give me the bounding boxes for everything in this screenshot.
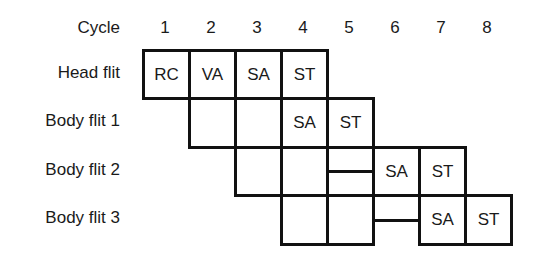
stall-cell bbox=[234, 146, 283, 197]
cycle-number: 2 bbox=[188, 18, 234, 38]
row-label-body-flit-2: Body flit 2 bbox=[0, 160, 120, 180]
stage-cell-sa: SA bbox=[234, 49, 283, 100]
stage-cell-st: ST bbox=[326, 97, 375, 149]
stall-cell bbox=[280, 194, 329, 246]
stall-cell bbox=[280, 146, 329, 197]
stage-cell-sa: SA bbox=[372, 146, 421, 197]
cycle-number: 6 bbox=[372, 18, 418, 38]
cycle-number: 5 bbox=[326, 18, 372, 38]
row-label-body-flit-3: Body flit 3 bbox=[0, 208, 120, 228]
cycle-number: 7 bbox=[418, 18, 464, 38]
stall-divider-line bbox=[372, 219, 421, 222]
row-label-body-flit-1: Body flit 1 bbox=[0, 111, 120, 131]
stage-cell-st: ST bbox=[464, 194, 513, 246]
stage-cell-va: VA bbox=[188, 49, 237, 100]
stall-cell bbox=[326, 194, 375, 246]
cycle-number: 8 bbox=[464, 18, 510, 38]
row-label-head-flit: Head flit bbox=[0, 63, 120, 83]
stage-cell-st: ST bbox=[280, 49, 329, 100]
stall-divider-line bbox=[326, 170, 375, 173]
stage-cell-st: ST bbox=[418, 146, 467, 197]
stage-cell-sa: SA bbox=[418, 194, 467, 246]
stall-cell bbox=[234, 97, 283, 149]
stall-cell bbox=[188, 97, 237, 149]
stage-cell-sa: SA bbox=[280, 97, 329, 149]
cycle-number: 1 bbox=[142, 18, 188, 38]
cycle-number: 4 bbox=[280, 18, 326, 38]
stage-cell-rc: RC bbox=[142, 49, 191, 100]
cycle-header-label: Cycle bbox=[0, 18, 120, 38]
cycle-number: 3 bbox=[234, 18, 280, 38]
